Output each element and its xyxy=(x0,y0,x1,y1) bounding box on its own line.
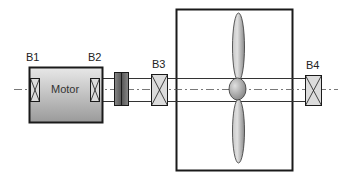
motor-label: Motor xyxy=(51,83,79,95)
propeller-blade-bottom xyxy=(233,99,245,163)
shaft-diagram: Motor B1 B2 B3 B4 xyxy=(0,0,349,180)
bearing-b2-label: B2 xyxy=(88,51,101,63)
coupling xyxy=(115,73,129,106)
bearing-b1 xyxy=(31,79,40,102)
propeller-hub xyxy=(229,78,246,100)
bearing-b3 xyxy=(152,75,168,106)
bearing-b1-label: B1 xyxy=(26,51,39,63)
bearing-b4-label: B4 xyxy=(306,59,319,71)
bearing-b2 xyxy=(91,79,100,102)
bearing-b4 xyxy=(306,76,322,106)
bearing-b3-label: B3 xyxy=(152,58,165,70)
propeller-blade-top xyxy=(233,13,245,81)
